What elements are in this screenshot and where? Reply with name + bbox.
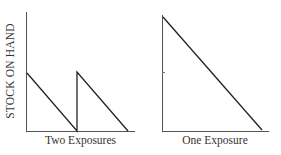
right-chart: [162, 15, 269, 132]
left-sawtooth-line: [27, 72, 128, 131]
charts-canvas: [0, 0, 281, 155]
y-axis-label: STOCK ON HAND: [4, 16, 18, 126]
right-x-axis-label: One Exposure: [162, 134, 268, 146]
left-chart: [26, 12, 135, 132]
left-x-axis-label: Two Exposures: [26, 134, 135, 146]
right-depletion-line: [163, 17, 262, 130]
